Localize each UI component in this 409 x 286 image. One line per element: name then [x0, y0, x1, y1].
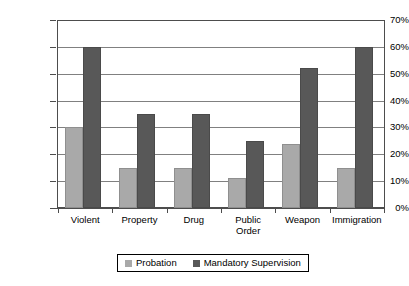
x-axis-tick-label: Property — [112, 214, 166, 225]
bar-probation — [65, 127, 83, 208]
bar-probation — [337, 168, 355, 208]
x-axis-tick-mark — [330, 208, 331, 213]
bar-group — [112, 20, 166, 208]
legend-label-mandatory-supervision: Mandatory Supervision — [204, 258, 301, 268]
legend-swatch-mandatory-supervision-icon — [193, 260, 200, 267]
bar-mandatory-supervision — [137, 114, 155, 208]
y-axis-tick-mark — [50, 181, 56, 182]
x-axis-tick-label: PublicOrder — [221, 214, 275, 236]
legend-item-probation: Probation — [125, 258, 177, 268]
bar-probation — [282, 144, 300, 208]
y-axis-tick-mark — [50, 154, 56, 155]
x-axis-tick-mark — [112, 208, 113, 213]
x-axis-tick-mark — [221, 208, 222, 213]
bar-group — [221, 20, 275, 208]
bar-probation — [119, 168, 137, 208]
x-axis-line — [51, 208, 385, 209]
x-axis-tick-label: Weapon — [275, 214, 329, 225]
x-axis-tick-label: Drug — [167, 214, 221, 225]
chart-legend: Probation Mandatory Supervision — [117, 254, 309, 272]
legend-item-mandatory-supervision: Mandatory Supervision — [193, 258, 301, 268]
bar-mandatory-supervision — [355, 47, 373, 208]
bar-group — [58, 20, 112, 208]
bar-group — [275, 20, 329, 208]
x-axis-tick-mark — [275, 208, 276, 213]
y-axis-tick-mark — [50, 74, 56, 75]
x-axis-tick-mark — [58, 208, 59, 213]
y-axis-tick-mark — [50, 101, 56, 102]
y-axis-tick-mark — [50, 20, 56, 21]
x-axis-tick-label: Immigration — [330, 214, 384, 225]
bar-mandatory-supervision — [246, 141, 264, 208]
bar-series-layer — [58, 20, 384, 208]
y-axis-tick-mark — [50, 47, 56, 48]
x-axis-tick-mark — [167, 208, 168, 213]
bar-mandatory-supervision — [300, 68, 318, 208]
x-axis-tick-label: Violent — [58, 214, 112, 225]
bar-group — [167, 20, 221, 208]
legend-label-probation: Probation — [136, 258, 177, 268]
bar-probation — [228, 178, 246, 208]
bar-mandatory-supervision — [192, 114, 210, 208]
y-axis-tick-mark — [50, 127, 56, 128]
bar-mandatory-supervision — [83, 47, 101, 208]
bar-chart: 0%10%20%30%40%50%60%70% ViolentPropertyD… — [0, 0, 409, 286]
x-axis-tick-mark — [384, 208, 385, 213]
legend-swatch-probation-icon — [125, 260, 132, 267]
bar-probation — [174, 168, 192, 208]
bar-group — [330, 20, 384, 208]
